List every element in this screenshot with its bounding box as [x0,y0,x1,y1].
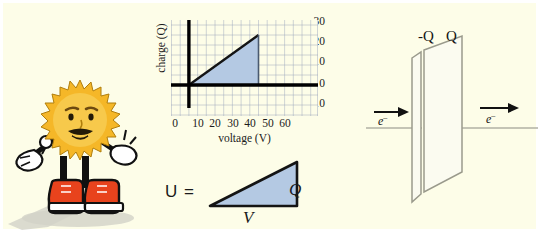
figure-border-top [0,0,541,3]
physics-capacitor-energy-figure: charge (Q) 30 20 10 0 -10 [0,0,541,232]
mascot-right-shoe [85,180,123,213]
electron-label-right: e– [486,111,495,127]
capacitor-plate-positive [424,36,462,192]
figure-border-left [0,0,3,232]
capacitor-negative-charge-label: -Q [418,28,434,45]
capacitor-positive-charge-label: Q [446,28,457,45]
formula-v-label: V [243,208,253,228]
formula-triangle-svg [207,158,302,210]
formula-q-label: Q [289,180,301,200]
charge-voltage-chart: charge (Q) 30 20 10 0 -10 [140,14,325,142]
electron-label-right-superscript: – [491,111,495,120]
sun-mascot-illustration [8,78,138,232]
chart-x-axis-label: voltage (V) [171,132,318,144]
mascot-left-shoe [49,180,87,213]
capacitor-svg [366,14,538,224]
chart-plot-area [171,20,318,116]
chart-y-axis-label: charge (Q) [155,5,171,91]
formula-lhs-label: U = [165,182,195,202]
chart-xtick-60: 60 [274,118,296,128]
energy-formula-triangle: U = Q V [165,158,325,226]
parallel-plate-capacitor-diagram: -Q Q e– e– [366,14,538,224]
electron-label-left-superscript: – [383,113,387,122]
mascot-left-glove [16,150,42,171]
electron-label-left: e– [378,113,387,129]
sun-mascot-svg [8,78,138,232]
chart-xtick-0: 0 [164,118,186,128]
capacitor-plate-negative [412,52,421,202]
